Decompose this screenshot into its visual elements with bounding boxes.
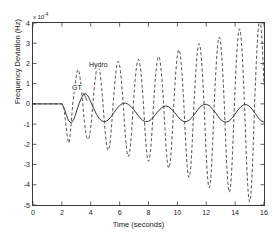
series-gt: [33, 94, 264, 123]
x-tick-label: 0: [23, 209, 43, 216]
x-tick-label: 4: [81, 209, 101, 216]
plot-svg: [33, 23, 264, 205]
tick-marks: [33, 23, 264, 205]
y-tick-label: -3: [4, 161, 30, 168]
series-layer: [33, 23, 264, 202]
gt-curve-label: GT: [71, 84, 83, 92]
x-axis-title: Time (seconds): [0, 220, 277, 229]
y-tick-label: -2: [4, 141, 30, 148]
hydro-curve-label: Hydro: [88, 61, 109, 69]
x-tick-label: 2: [52, 209, 72, 216]
y-axis-multiplier-exponent: -4: [44, 12, 48, 17]
y-axis-multiplier-prefix: x 10: [33, 14, 44, 20]
series-hydro: [33, 23, 264, 202]
x-tick-label: 16: [254, 209, 274, 216]
plot-area: [32, 22, 265, 206]
x-tick-label: 10: [167, 209, 187, 216]
y-axis-multiplier: x 10-4: [33, 11, 48, 21]
y-tick-label: -4: [4, 181, 30, 188]
y-axis-title: Frequency Deviation (Hz): [13, 0, 22, 127]
x-tick-label: 6: [110, 209, 130, 216]
x-tick-label: 14: [225, 209, 245, 216]
y-tick-label: -5: [4, 202, 30, 209]
x-tick-label: 8: [139, 209, 159, 216]
figure-canvas: x 10-4 -5-4-3-2-101234 Hydro GT 02468101…: [0, 0, 277, 234]
y-axis-title-wrapper: Frequency Deviation (Hz): [13, 0, 22, 127]
x-tick-label: 12: [196, 209, 216, 216]
